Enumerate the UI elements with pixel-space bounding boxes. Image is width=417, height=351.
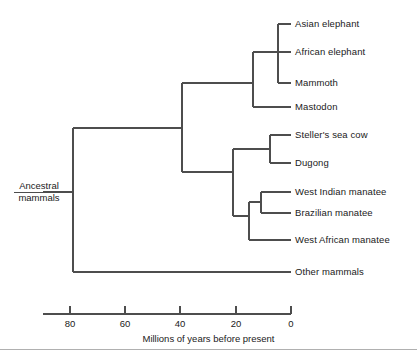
tip-label-other-mammals: Other mammals	[295, 266, 364, 277]
tree-branches	[43, 24, 291, 272]
axis-tick-label-60: 60	[120, 318, 131, 329]
tip-label-dugong: Dugong	[295, 157, 329, 168]
axis-tick-label-0: 0	[288, 318, 293, 329]
ancestral-mammals-label: Ancestral mammals	[14, 181, 64, 203]
axis-title: Millions of years before present	[0, 333, 417, 344]
tip-label-west-indian-manatee: West Indian manatee	[295, 186, 387, 197]
tip-label-brazilian-manatee: Brazilian manatee	[295, 207, 373, 218]
bottom-divider	[0, 349, 417, 350]
tip-label-african-elephant: African elephant	[295, 46, 365, 57]
time-axis	[43, 306, 291, 314]
tip-label-mammoth: Mammoth	[295, 77, 338, 88]
axis-tick-label-80: 80	[65, 318, 76, 329]
phylogenetic-tree-figure: Ancestral mammals Asian elephant African…	[0, 0, 417, 351]
axis-tick-label-40: 40	[175, 318, 186, 329]
ancestral-mammals-label-line1: Ancestral	[14, 181, 64, 193]
ancestral-mammals-label-line2: mammals	[14, 193, 64, 204]
tip-label-mastodon: Mastodon	[295, 101, 338, 112]
axis-tick-label-20: 20	[231, 318, 242, 329]
tip-label-asian-elephant: Asian elephant	[295, 18, 359, 29]
tip-label-stellers-sea-cow: Steller's sea cow	[295, 129, 368, 140]
tip-label-west-african-manatee: West African manatee	[295, 234, 390, 245]
